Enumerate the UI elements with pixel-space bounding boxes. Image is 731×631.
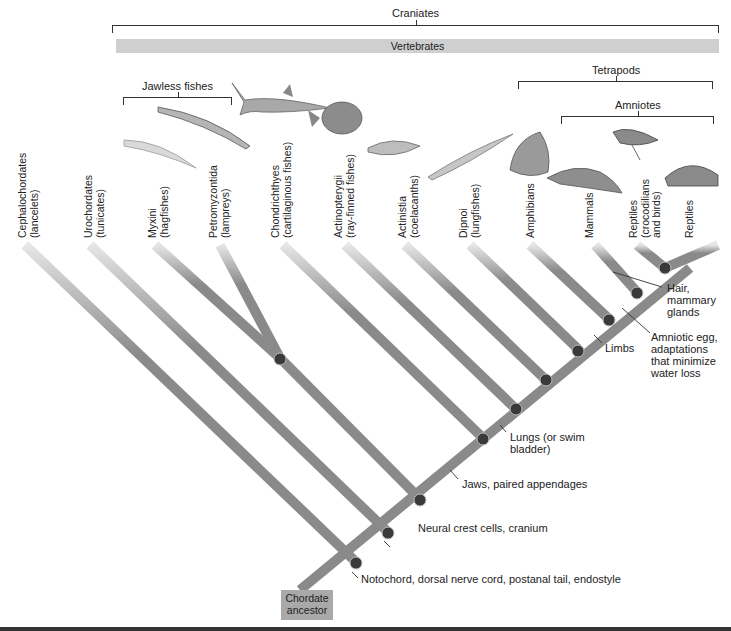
coelacanth-icon <box>368 141 420 155</box>
frog-icon <box>510 132 549 176</box>
trait-hair: Hair,mammaryglands <box>667 282 716 318</box>
chordate-ancestor-box: Chordateancestor <box>281 590 333 620</box>
taxon-cephalochordates: Cephalochordates(lancelets) <box>17 153 40 238</box>
tortoise-icon <box>665 166 718 186</box>
bracket-amniotes <box>561 116 714 124</box>
bar-vertebrates: Vertebrates <box>116 39 719 53</box>
bracket-tetrapods <box>518 81 713 89</box>
taxon-myxini: Myxini(hagfishes) <box>147 186 170 238</box>
trait-jaws: Jaws, paired appendages <box>462 478 587 490</box>
bird-icon <box>613 129 658 160</box>
taxon-actinopterygii: Actinopterygii(ray-finned fishes) <box>333 154 356 238</box>
taxon-dipnoi: Dipnoi(lungfishes) <box>458 184 481 238</box>
label-tetrapods: Tetrapods <box>592 64 640 76</box>
bracket-craniates <box>112 25 719 33</box>
taxon-amphibians: Amphibians <box>525 183 537 238</box>
trait-amniotic-egg: Amniotic egg,adaptationsthat minimizewat… <box>651 331 718 379</box>
trait-notochord: Notochord, dorsal nerve cord, postanal t… <box>361 573 621 585</box>
label-amniotes: Amniotes <box>615 99 661 111</box>
label-jawless-fishes: Jawless fishes <box>142 80 213 92</box>
lungfish-icon <box>428 134 513 180</box>
trait-neural-crest: Neural crest cells, cranium <box>418 522 548 534</box>
taxon-actinistia: Actinistia(coelacanths) <box>397 175 420 238</box>
taxon-urochordates: Urochordates(tunicates) <box>83 175 106 238</box>
trait-limbs: Limbs <box>605 342 634 354</box>
taxon-reptiles-crocodilians-birds: Reptiles(crocodiliansand birds) <box>628 179 663 238</box>
taxon-chondrichthyes: Chondrichthyes(cartilaginous fishes) <box>270 142 293 238</box>
hagfish-icon <box>124 140 196 168</box>
trait-lungs: Lungs (or swimbladder) <box>510 431 585 455</box>
shark-icon <box>232 83 330 115</box>
bracket-jawless-fishes <box>123 97 232 105</box>
label-craniates: Craniates <box>392 7 439 19</box>
taxon-reptiles: Reptiles <box>684 200 696 238</box>
lamprey-icon <box>158 107 250 149</box>
bottom-rule <box>0 627 731 631</box>
animal-illustrations <box>0 0 731 631</box>
platypus-icon <box>547 168 622 193</box>
taxon-mammals: Mammals <box>584 192 596 238</box>
taxon-petromyzontida: Petromyzontida(lampreys) <box>208 165 231 238</box>
